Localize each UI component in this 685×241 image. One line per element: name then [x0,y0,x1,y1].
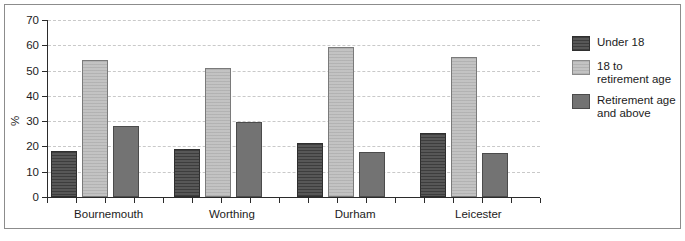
x-axis-tick-mark [424,198,425,203]
plot-area: 010203040506070 BournemouthWorthingDurha… [47,20,540,198]
bar [51,151,77,197]
x-axis-tick-mark [134,198,135,203]
x-axis-tick-mark [47,198,48,203]
bar [205,68,231,197]
x-axis-tick-mark [192,198,193,203]
y-axis-tick-label: 60 [26,39,39,51]
legend-divider [560,5,561,228]
x-axis-tick-mark [366,198,367,203]
y-axis-tick-mark [42,71,47,72]
x-axis-tick-mark [250,198,251,203]
chart-legend: Under 18 18 to retirement age Retirement… [572,36,676,128]
bar [113,126,139,197]
legend-item: 18 to retirement age [572,60,676,85]
x-axis-tick-mark [221,198,222,203]
legend-label: 18 to retirement age [597,60,676,85]
y-axis-tick-label: 50 [26,65,39,77]
bar [236,122,262,197]
bar [420,133,446,197]
gridline [48,45,540,46]
x-axis-tick-mark [308,198,309,203]
bar [451,57,477,197]
bar [482,153,508,197]
x-axis-tick-mark [511,198,512,203]
legend-label: Under 18 [597,36,644,49]
x-axis-category-label: Bournemouth [74,208,143,220]
legend-swatch-icon-18-to-retirement-age [572,60,590,75]
y-axis-tick-label: 70 [26,14,39,26]
x-axis-tick-mark [163,198,164,203]
legend-swatch-icon-retirement-age-and-above [572,94,590,109]
y-axis-tick-label: 0 [33,191,39,203]
x-axis-category-label: Worthing [209,208,255,220]
y-axis-tick-label: 40 [26,90,39,102]
y-axis-tick-mark [42,45,47,46]
x-axis-tick-mark [76,198,77,203]
y-axis-tick-mark [42,96,47,97]
x-axis-tick-mark [337,198,338,203]
bar [328,47,354,197]
y-axis-tick-mark [42,121,47,122]
y-axis-tick-mark [42,172,47,173]
x-axis-tick-mark [540,198,541,203]
x-axis-tick-mark [395,198,396,203]
y-axis-tick-label: 30 [26,115,39,127]
x-axis-tick-mark [279,198,280,203]
legend-item: Retirement age and above [572,94,676,119]
legend-swatch-icon-under-18 [572,36,590,51]
bar [82,60,108,197]
y-axis-tick-mark [42,146,47,147]
bar [297,143,323,197]
x-axis-line [47,197,540,198]
legend-label: Retirement age and above [597,94,676,119]
x-axis-tick-mark [453,198,454,203]
chart-figure: % 010203040506070 BournemouthWorthingDur… [0,0,685,241]
bar [174,149,200,197]
gridline [48,20,540,21]
x-axis-category-label: Durham [335,208,376,220]
legend-item: Under 18 [572,36,676,51]
x-axis-tick-mark [482,198,483,203]
y-axis-tick-mark [42,20,47,21]
bar [359,152,385,198]
y-axis-label: % [9,115,21,125]
x-axis-category-label: Leicester [455,208,502,220]
y-axis-tick-label: 10 [26,166,39,178]
y-axis-tick-label: 20 [26,140,39,152]
x-axis-tick-mark [105,198,106,203]
